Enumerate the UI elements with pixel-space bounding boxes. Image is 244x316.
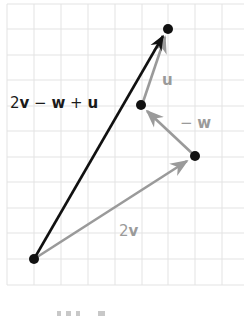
vector-resultant xyxy=(34,36,163,259)
point-after-2v xyxy=(190,151,200,161)
label-u: u xyxy=(162,71,173,89)
point-tip xyxy=(163,24,173,34)
label-minus-w: − w xyxy=(180,114,211,132)
caption-fragment xyxy=(57,311,61,316)
caption-fragment xyxy=(66,311,71,316)
caption-fragment xyxy=(98,311,105,316)
caption-fragment xyxy=(76,311,80,316)
vector-2v xyxy=(34,161,187,259)
point-after-minus-w xyxy=(136,100,146,110)
vector-diagram: 2v − w + u u − w 2v xyxy=(0,0,244,316)
label-resultant: 2v − w + u xyxy=(10,94,98,112)
label-2v: 2v xyxy=(119,222,139,240)
point-origin xyxy=(29,254,39,264)
